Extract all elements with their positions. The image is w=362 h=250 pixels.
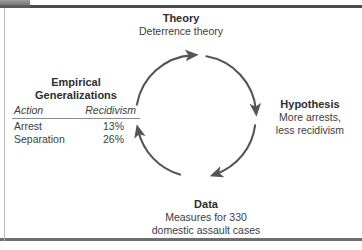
- node-data: Data Measures for 330 domestic assault c…: [96, 198, 316, 237]
- node-hypothesis-body-line1: More arrests,: [258, 111, 362, 124]
- node-hypothesis-body-line2: less recidivism: [258, 124, 362, 137]
- node-empirical-generalizations: Empirical Generalizations Action Recidiv…: [12, 76, 140, 146]
- node-data-body-line1: Measures for 330: [96, 211, 316, 224]
- node-hypothesis-title: Hypothesis: [258, 98, 362, 111]
- arrow-hypothesis-to-data: [216, 125, 255, 174]
- table-row: Arrest 13%: [12, 118, 140, 132]
- node-hypothesis: Hypothesis More arrests, less recidivism: [258, 98, 362, 137]
- arrow-empirical-to-theory: [137, 55, 192, 105]
- arrow-theory-to-hypothesis: [206, 56, 256, 110]
- node-empirical-title-line1: Empirical: [12, 76, 140, 89]
- table-row: Separation 26%: [12, 132, 140, 146]
- node-data-body-line2: domestic assault cases: [96, 224, 316, 237]
- empirical-results-table: Action Recidivism Arrest 13% Separation …: [12, 104, 140, 146]
- node-theory: Theory Deterrence theory: [0, 12, 362, 38]
- table-cell-action: Arrest: [12, 118, 75, 132]
- table-header-action: Action: [12, 104, 75, 118]
- table-header-recidivism: Recidivism: [75, 104, 140, 118]
- research-cycle-figure: Theory Deterrence theory Hypothesis More…: [0, 0, 362, 250]
- table-cell-recidivism: 26%: [75, 132, 140, 146]
- arrow-data-to-empirical: [138, 131, 180, 175]
- node-theory-title: Theory: [0, 12, 362, 25]
- table-cell-action: Separation: [12, 132, 75, 146]
- node-theory-body: Deterrence theory: [0, 25, 362, 38]
- table-header-row: Action Recidivism: [12, 104, 140, 118]
- node-empirical-title-line2: Generalizations: [12, 89, 140, 102]
- table-cell-recidivism: 13%: [75, 118, 140, 132]
- node-data-title: Data: [96, 198, 316, 211]
